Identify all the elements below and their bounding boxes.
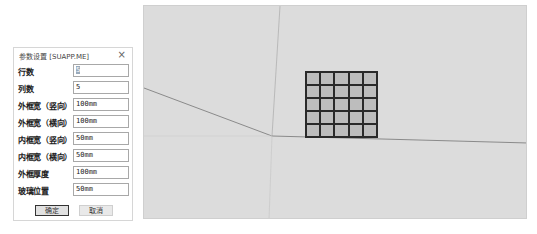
grid-cell xyxy=(349,72,363,85)
input-value: 5 xyxy=(76,66,80,74)
inner-width-vertical-input[interactable]: 50mm xyxy=(73,132,129,145)
grid-cell xyxy=(349,124,363,137)
grid-cell xyxy=(363,98,377,111)
ok-button[interactable]: 确定 xyxy=(35,205,69,216)
dialog-title: 参数设置 [SUAPP.ME] xyxy=(19,51,89,61)
3d-viewport[interactable] xyxy=(143,5,527,219)
grid-cell xyxy=(320,111,334,124)
grid-cell xyxy=(363,85,377,98)
field-label: 外框厚度 xyxy=(18,168,49,179)
cancel-button[interactable]: 取消 xyxy=(79,205,113,216)
grid-cell xyxy=(334,124,348,137)
field-label: 内框宽（横向） xyxy=(18,151,72,162)
close-icon[interactable]: × xyxy=(118,49,126,60)
grid-cell xyxy=(363,124,377,137)
outer-width-horizontal-input[interactable]: 100mm xyxy=(73,115,129,128)
grid-cell xyxy=(349,98,363,111)
grid-cell xyxy=(320,124,334,137)
field-glass-position: 玻璃位置 50mm xyxy=(18,183,130,197)
field-rows: 行数 5 xyxy=(18,64,130,78)
parameter-dialog: 参数设置 [SUAPP.ME] × 行数 5 列数 5 外框宽（竖向） 100m… xyxy=(13,47,133,221)
grid-cell xyxy=(306,111,320,124)
outer-width-vertical-input[interactable]: 100mm xyxy=(73,98,129,111)
inner-width-horizontal-input[interactable]: 50mm xyxy=(73,149,129,162)
grid-cell xyxy=(349,111,363,124)
grid-cell xyxy=(363,72,377,85)
grid-cell xyxy=(320,98,334,111)
outer-thickness-input[interactable]: 100mm xyxy=(73,166,129,179)
field-label: 列数 xyxy=(18,83,33,94)
grid-cell xyxy=(306,124,320,137)
rows-input[interactable]: 5 xyxy=(73,64,129,77)
field-label: 外框宽（横向） xyxy=(18,117,72,128)
field-outer-thickness: 外框厚度 100mm xyxy=(18,166,130,180)
grid-cell xyxy=(306,98,320,111)
field-inner-width-vertical: 内框宽（竖向） 50mm xyxy=(18,132,130,146)
grid-cell xyxy=(334,98,348,111)
field-outer-width-horizontal: 外框宽（横向） 100mm xyxy=(18,115,130,129)
grid-cell xyxy=(306,72,320,85)
window-grid-model[interactable] xyxy=(305,71,378,138)
grid-cell xyxy=(320,72,334,85)
field-label: 玻璃位置 xyxy=(18,185,49,196)
grid-cell xyxy=(334,111,348,124)
grid-cell xyxy=(306,85,320,98)
grid-cell xyxy=(334,72,348,85)
field-label: 内框宽（竖向） xyxy=(18,134,72,145)
grid-cell xyxy=(349,85,363,98)
field-inner-width-horizontal: 内框宽（横向） 50mm xyxy=(18,149,130,163)
field-label: 行数 xyxy=(18,66,33,77)
grid-cell xyxy=(363,111,377,124)
field-cols: 列数 5 xyxy=(18,81,130,95)
grid-cell xyxy=(320,85,334,98)
cols-input[interactable]: 5 xyxy=(73,81,129,94)
grid-cell xyxy=(334,85,348,98)
field-outer-width-vertical: 外框宽（竖向） 100mm xyxy=(18,98,130,112)
glass-position-input[interactable]: 50mm xyxy=(73,183,129,196)
field-label: 外框宽（竖向） xyxy=(18,100,72,111)
